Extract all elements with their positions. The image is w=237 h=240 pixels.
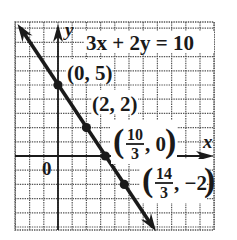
data-point (53, 80, 62, 89)
paren-open: ( (142, 161, 153, 199)
data-point (101, 151, 110, 160)
line-graph: y3x + 2y = 10(0, 5)(2, 2)x0(103, 0)(143,… (0, 0, 237, 240)
point-label-10-3-0: (103, 0) (111, 120, 177, 164)
equation-label: 3x + 2y = 10 (86, 31, 194, 55)
y-axis-label: y (63, 19, 74, 40)
origin-label: 0 (42, 158, 52, 179)
data-point (82, 123, 91, 132)
data-point (120, 180, 129, 189)
point-label-2-2: (2, 2) (92, 92, 138, 116)
paren-close: ) (165, 122, 176, 160)
paren-close: ) (204, 161, 215, 199)
label-rest: , 0 (145, 132, 166, 156)
labels: y3x + 2y = 10(0, 5)(2, 2)x0(103, 0)(143,… (42, 19, 215, 203)
x-axis-label: x (202, 131, 213, 152)
point-label-14-3-neg2: (143, −2) (140, 159, 215, 203)
label-rest: , −2 (174, 171, 207, 195)
point-label-0-5: (0, 5) (67, 61, 113, 85)
fraction-denominator: 3 (160, 184, 168, 201)
fraction-denominator: 3 (131, 145, 139, 162)
paren-open: ( (113, 122, 124, 160)
fraction-numerator: 14 (156, 165, 172, 182)
fraction-numerator: 10 (127, 126, 143, 143)
